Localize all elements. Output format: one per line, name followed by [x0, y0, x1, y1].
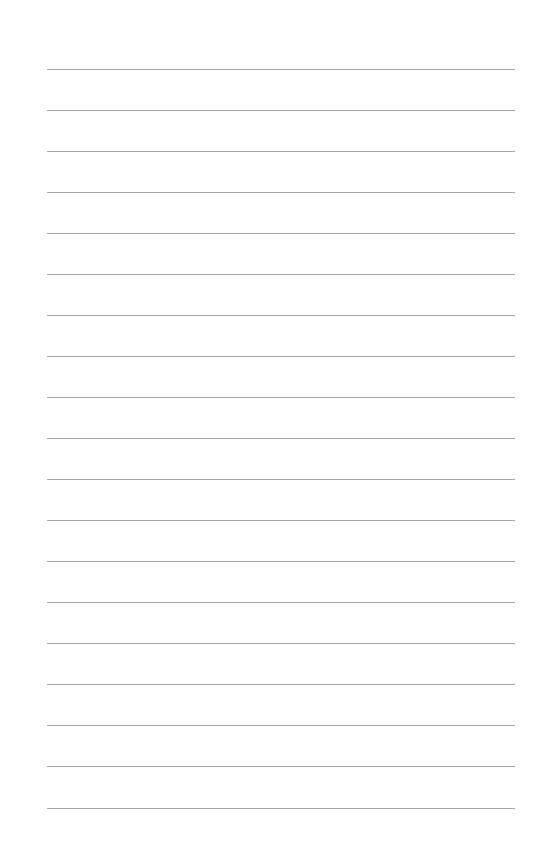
ruled-line — [47, 561, 515, 562]
ruled-line — [47, 397, 515, 398]
ruled-line — [47, 808, 515, 809]
ruled-line — [47, 438, 515, 439]
ruled-line — [47, 274, 515, 275]
ruled-line — [47, 233, 515, 234]
lined-paper-page — [0, 0, 533, 863]
ruled-line — [47, 110, 515, 111]
ruled-line — [47, 766, 515, 767]
ruled-line — [47, 520, 515, 521]
ruled-line — [47, 356, 515, 357]
ruled-line — [47, 602, 515, 603]
ruled-line — [47, 315, 515, 316]
ruled-line — [47, 69, 515, 70]
ruled-line — [47, 151, 515, 152]
ruled-line — [47, 725, 515, 726]
ruled-line — [47, 479, 515, 480]
ruled-line — [47, 192, 515, 193]
ruled-line — [47, 643, 515, 644]
ruled-line — [47, 684, 515, 685]
